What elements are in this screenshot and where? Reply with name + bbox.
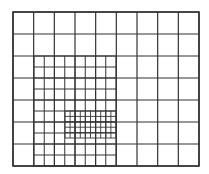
mesh-refinement-diagram — [0, 0, 209, 174]
fine-refined-grid — [65, 111, 116, 138]
